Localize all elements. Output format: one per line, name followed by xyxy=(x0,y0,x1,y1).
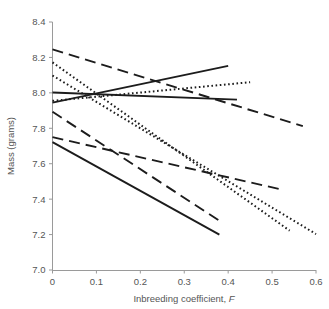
y-tick-label: 8.2 xyxy=(32,52,45,63)
y-tick-label: 7.4 xyxy=(32,194,45,205)
y-tick-label: 7.2 xyxy=(32,229,45,240)
x-tick-label: 0 xyxy=(50,276,55,287)
series-line-solid-rising xyxy=(53,66,229,103)
x-axis-title-symbol: F xyxy=(229,293,236,304)
y-axis-ticks xyxy=(49,22,53,270)
y-axis-title: Mass (grams) xyxy=(5,117,16,175)
x-tick-label: 0.4 xyxy=(222,276,235,287)
series-line-dashed-long-upper xyxy=(53,49,303,126)
y-axis-tick-labels: 7.07.27.47.67.88.08.28.4 xyxy=(32,16,45,275)
series-line-dashed-mid-falling xyxy=(53,112,220,221)
chart-container: 7.07.27.47.67.88.08.28.4 00.10.20.30.40.… xyxy=(0,0,329,309)
x-tick-label: 0.6 xyxy=(309,276,322,287)
x-tick-label: 0.2 xyxy=(134,276,147,287)
x-axis-title-text: Inbreeding coefficient, xyxy=(133,293,228,304)
series-lines-group xyxy=(53,49,317,234)
x-axis-tick-labels: 00.10.20.30.40.50.6 xyxy=(50,276,323,287)
x-tick-label: 0.1 xyxy=(90,276,103,287)
y-tick-label: 7.0 xyxy=(32,264,45,275)
x-axis-title: Inbreeding coefficient, F xyxy=(133,293,235,304)
x-tick-label: 0.5 xyxy=(265,276,278,287)
y-tick-label: 7.6 xyxy=(32,158,45,169)
y-tick-label: 8.4 xyxy=(32,16,45,27)
series-line-dashed-lower-shallow xyxy=(53,137,281,189)
y-tick-label: 7.8 xyxy=(32,123,45,134)
x-tick-label: 0.3 xyxy=(178,276,191,287)
series-line-dotted-steep-falling-a xyxy=(53,62,290,230)
mass-vs-inbreeding-line-chart: 7.07.27.47.67.88.08.28.4 00.10.20.30.40.… xyxy=(0,0,329,309)
y-tick-label: 8.0 xyxy=(32,87,45,98)
